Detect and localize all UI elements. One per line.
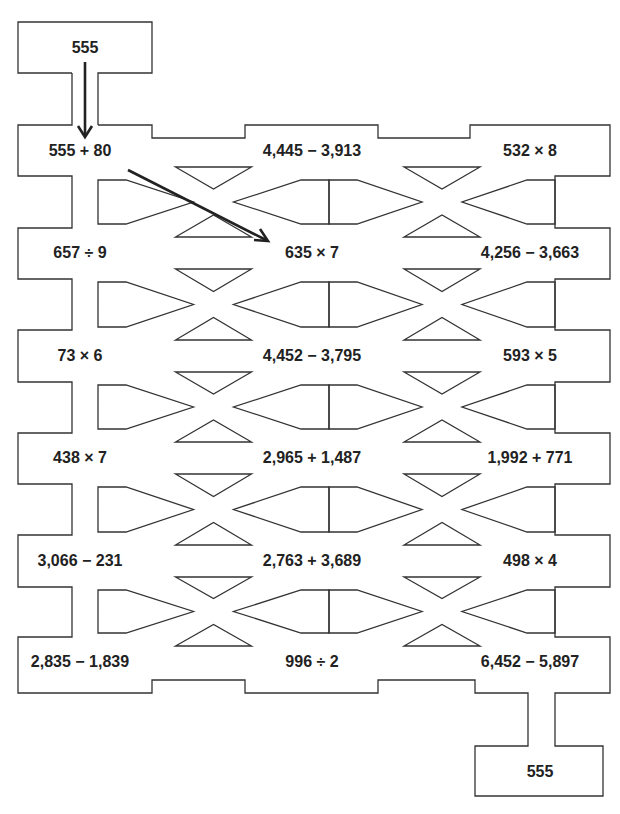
wall-triangle-bottom <box>404 420 480 442</box>
maze-cell-expression: 4,256 − 3,663 <box>481 244 579 262</box>
maze-cell-expression: 498 × 4 <box>503 552 557 570</box>
maze-cell-expression: 555 + 80 <box>49 142 112 160</box>
wall-triangle-top <box>404 269 480 292</box>
wall-arrowhead-right <box>462 282 555 327</box>
wall-arrowhead-right <box>462 590 555 633</box>
wall-triangle-bottom <box>176 420 252 442</box>
wall-triangle-top <box>176 167 252 189</box>
wall-triangle-bottom <box>404 215 480 237</box>
wall-triangle-top <box>176 372 252 394</box>
wall-triangle-top <box>176 577 252 599</box>
wall-triangle-top <box>404 167 480 189</box>
maze-cell-expression: 1,992 + 771 <box>488 449 573 467</box>
maze-cell-expression: 6,452 − 5,897 <box>481 653 579 671</box>
wall-arrowhead-left <box>329 590 422 633</box>
wall-triangle-top <box>404 577 480 599</box>
wall-arrowhead-left <box>329 487 422 532</box>
wall-arrowhead-left <box>329 282 422 327</box>
maze-walls <box>0 0 620 814</box>
wall-arrowhead-right <box>234 180 330 224</box>
maze-cell-expression: 996 ÷ 2 <box>285 653 338 671</box>
maze-cell-expression: 2,965 + 1,487 <box>263 449 361 467</box>
start-label: 555 <box>72 39 99 57</box>
wall-arrowhead-right <box>462 385 555 429</box>
wall-triangle-top <box>404 474 480 497</box>
maze-cell-expression: 635 × 7 <box>285 244 339 262</box>
wall-arrowhead-right <box>462 487 555 532</box>
wall-arrowhead-left <box>98 590 194 633</box>
wall-triangle-bottom <box>404 318 480 341</box>
wall-triangle-bottom <box>404 625 480 647</box>
arrow-diagonal <box>128 170 266 240</box>
maze-cell-expression: 2,763 + 3,689 <box>263 552 361 570</box>
maze-cell-expression: 4,452 − 3,795 <box>263 347 361 365</box>
wall-arrowhead-right <box>462 180 555 224</box>
wall-triangle-top <box>176 269 252 292</box>
wall-arrowhead-right <box>234 487 330 532</box>
wall-triangle-bottom <box>176 318 252 341</box>
wall-arrowhead-left <box>98 385 194 429</box>
wall-triangle-top <box>404 372 480 394</box>
wall-arrowhead-left <box>329 385 422 429</box>
maze-cell-expression: 593 × 5 <box>503 347 557 365</box>
wall-arrowhead-right <box>234 385 330 429</box>
wall-triangle-bottom <box>404 523 480 546</box>
maze-cell-expression: 3,066 − 231 <box>38 552 123 570</box>
maze-cell-expression: 2,835 − 1,839 <box>31 653 129 671</box>
maze-cell-expression: 657 ÷ 9 <box>53 244 106 262</box>
wall-triangle-top <box>176 474 252 497</box>
wall-arrowhead-left <box>98 180 194 224</box>
wall-triangle-bottom <box>176 523 252 546</box>
wall-arrowhead-left <box>98 487 194 532</box>
wall-arrowhead-right <box>234 590 330 633</box>
wall-triangle-bottom <box>176 625 252 647</box>
maze-cell-expression: 4,445 − 3,913 <box>263 142 361 160</box>
end-label: 555 <box>527 763 554 781</box>
wall-arrowhead-right <box>234 282 330 327</box>
wall-arrowhead-left <box>98 282 194 327</box>
maze-cell-expression: 438 × 7 <box>53 449 107 467</box>
maze-cell-expression: 532 × 8 <box>503 142 557 160</box>
maze-cell-expression: 73 × 6 <box>58 347 103 365</box>
wall-arrowhead-left <box>329 180 422 224</box>
